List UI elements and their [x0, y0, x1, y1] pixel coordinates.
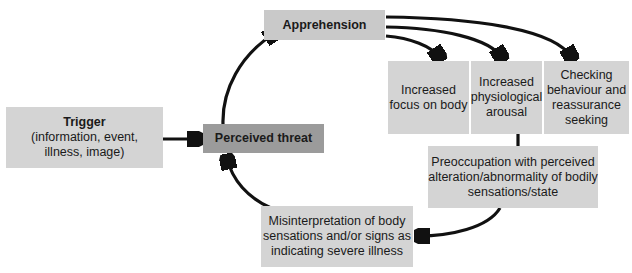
trigger-box: Trigger (information, event, illness, im…: [6, 107, 163, 168]
apprehension-label: Apprehension: [282, 18, 366, 33]
arrow-threat-to-apprehension: [223, 33, 275, 124]
increased-arousal-line-2: physiological: [471, 90, 543, 105]
increased-focus-box: Increased focus on body: [388, 61, 469, 134]
misinterpretation-box: Misinterpretation of body sensations and…: [261, 206, 413, 267]
checking-box: Checking behaviour and reassurance seeki…: [544, 61, 629, 134]
checking-line-4: seeking: [565, 113, 608, 128]
preoccupation-box: Preoccupation with perceived alteration/…: [428, 146, 598, 208]
arrow-apprehension-to-focus: [386, 36, 440, 58]
misinterpretation-line-1: Misinterpretation of body: [269, 214, 406, 229]
arrow-misinterpretation-to-threat: [227, 158, 271, 208]
apprehension-box: Apprehension: [264, 10, 385, 40]
arrow-apprehension-to-checking: [386, 17, 572, 58]
misinterpretation-line-3: indicating severe illness: [271, 244, 403, 259]
arrow-apprehension-to-arousal: [386, 27, 502, 58]
arrow-preoccupation-to-misinterpretation: [418, 208, 500, 236]
trigger-subtitle-2: illness, image): [45, 145, 125, 160]
increased-focus-line-1: Increased: [401, 83, 456, 98]
increased-arousal-line-3: arousal: [486, 105, 527, 120]
preoccupation-line-2: alteration/abnormality of bodily: [428, 170, 598, 185]
preoccupation-line-3: sensations/state: [468, 185, 558, 200]
increased-arousal-box: Increased physiological arousal: [471, 61, 542, 134]
trigger-title: Trigger: [63, 115, 105, 130]
increased-focus-line-2: focus on body: [390, 98, 468, 113]
checking-line-2: behaviour and: [547, 83, 626, 98]
perceived-threat-box: Perceived threat: [203, 124, 324, 153]
trigger-subtitle-1: (information, event,: [31, 130, 138, 145]
checking-line-1: Checking: [560, 68, 612, 83]
misinterpretation-line-2: sensations and/or signs as: [263, 229, 411, 244]
checking-line-3: reassurance: [552, 98, 621, 113]
perceived-threat-label: Perceived threat: [215, 131, 312, 146]
preoccupation-line-1: Preoccupation with perceived: [431, 155, 594, 170]
increased-arousal-line-1: Increased: [479, 75, 534, 90]
